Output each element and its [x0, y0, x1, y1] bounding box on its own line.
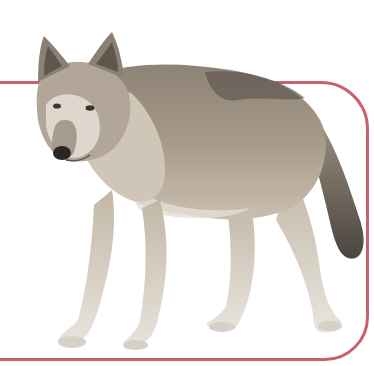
wolf-front-leg-far [58, 190, 114, 345]
wolf-eye-left [53, 103, 61, 108]
wolf-eye-right [86, 105, 95, 111]
wolf-image [0, 0, 374, 366]
wolf-front-leg-near [123, 200, 166, 349]
wolf-nose [53, 146, 71, 160]
wolf-hind-leg-far [206, 200, 255, 330]
